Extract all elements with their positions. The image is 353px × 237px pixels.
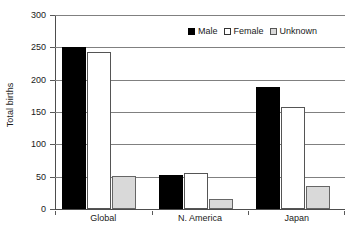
bar-global-male [62,47,86,209]
x-axis-labels: GlobalN. AmericaJapan [55,211,345,231]
y-axis-title: Total births [0,0,20,209]
y-axis-tick-label: 0 [41,205,46,214]
x-axis-tick-label: Global [90,213,116,223]
gridline [55,47,345,48]
bar-japan-female [281,107,305,209]
bar-japan-male [256,87,280,209]
bar-n-america-unknown [209,199,233,209]
bar-n-america-female [184,173,208,209]
x-axis-tick-mark [55,211,56,215]
y-axis-tick-label: 250 [31,43,46,52]
x-axis-tick-mark [248,211,249,215]
y-axis-tick-label: 50 [36,172,46,181]
y-axis-tick-label: 150 [31,108,46,117]
legend-item-female: Female [224,27,264,36]
legend-swatch-female-icon [224,28,231,35]
legend-label: Unknown [280,27,318,36]
x-axis-tick-label: Japan [284,213,309,223]
bar-japan-unknown [306,186,330,209]
bar-global-female [87,52,111,209]
bar-chart: Total births 050100150200250300 GlobalN.… [0,0,353,237]
legend-swatch-unknown-icon [270,28,277,35]
bar-n-america-male [159,175,183,209]
legend-item-male: Male [188,27,218,36]
y-axis-title-label: Total births [5,82,15,127]
legend-label: Male [198,27,218,36]
legend-item-unknown: Unknown [270,27,318,36]
x-axis-tick-label: N. America [178,213,222,223]
legend-label: Female [234,27,264,36]
y-axis-tick-label: 100 [31,140,46,149]
bar-global-unknown [112,176,136,209]
y-axis-tick-label: 200 [31,75,46,84]
y-axis-tick-labels: 050100150200250300 [18,0,50,237]
chart-legend: MaleFemaleUnknown [186,26,319,37]
gridline [55,15,345,16]
x-axis-tick-mark [344,211,345,215]
x-axis-baseline [55,209,345,210]
y-axis-tick-label: 300 [31,11,46,20]
x-axis-tick-mark [152,211,153,215]
legend-swatch-male-icon [188,28,195,35]
plot-area [55,15,345,209]
